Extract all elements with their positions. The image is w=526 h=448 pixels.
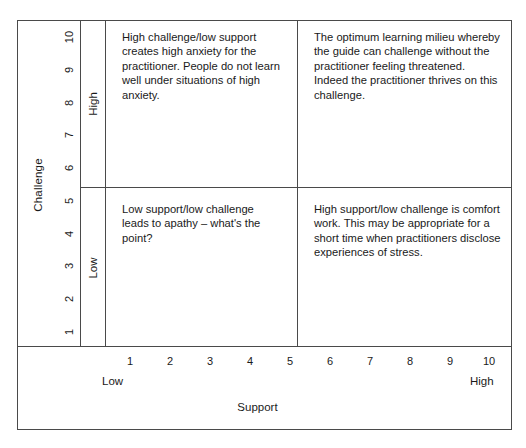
y-tick-label: 4 [63, 231, 75, 237]
x-axis-title: Support [18, 401, 513, 413]
y-tick: 1 [58, 315, 80, 348]
y-tick: 3 [58, 250, 80, 283]
y-tick: 2 [58, 283, 80, 316]
x-tick: 1 [115, 355, 145, 367]
challenge-support-matrix: Challenge 10 9 8 7 6 5 4 3 2 1 High Low … [17, 20, 512, 347]
quadrant-text: The optimum learning milieu whereby the … [314, 30, 502, 102]
y-tick-label: 9 [63, 67, 75, 73]
y-tick: 10 [58, 21, 80, 54]
band-low-text: Low [87, 257, 99, 278]
x-tick: 6 [315, 355, 345, 367]
x-tick: 2 [155, 355, 185, 367]
quadrant-high-challenge-low-support: High challenge/low support creates high … [106, 21, 297, 187]
quadrant-low-challenge-low-support: Low support/low challenge leads to apath… [106, 188, 297, 348]
band-label-high: High [81, 21, 105, 187]
y-tick-label: 5 [63, 198, 75, 204]
x-axis-high-label: High [470, 375, 494, 387]
y-axis-title-text: Challenge [32, 158, 44, 212]
y-tick: 5 [58, 185, 80, 218]
x-tick: 4 [235, 355, 265, 367]
x-tick: 8 [395, 355, 425, 367]
x-tick: 9 [435, 355, 465, 367]
x-tick: 5 [275, 355, 305, 367]
x-tick: 10 [474, 355, 504, 367]
y-axis-title: Challenge [18, 21, 58, 348]
quadrant-text: Low support/low challenge leads to apath… [122, 202, 283, 245]
y-tick: 8 [58, 86, 80, 119]
y-tick-label: 3 [63, 263, 75, 269]
y-tick: 7 [58, 119, 80, 152]
quadrant-high-challenge-high-support: The optimum learning milieu whereby the … [298, 21, 512, 187]
quadrant-text: High challenge/low support creates high … [122, 30, 283, 102]
x-axis-title-text: Support [237, 401, 277, 413]
quadrant-low-challenge-high-support: High support/low challenge is comfort wo… [298, 188, 512, 348]
quadrant-text: High support/low challenge is comfort wo… [314, 202, 502, 260]
y-tick: 9 [58, 54, 80, 87]
y-tick-label: 6 [63, 165, 75, 171]
band-high-text: High [87, 92, 99, 116]
x-tick: 7 [355, 355, 385, 367]
y-tick-label: 1 [63, 329, 75, 335]
band-label-low: Low [81, 188, 105, 348]
y-tick-label: 2 [63, 296, 75, 302]
x-tick: 3 [195, 355, 225, 367]
y-tick: 4 [58, 217, 80, 250]
y-tick: 6 [58, 152, 80, 185]
y-tick-label: 10 [63, 31, 75, 43]
y-tick-label: 7 [63, 132, 75, 138]
y-axis-ticks: 10 9 8 7 6 5 4 3 2 1 [58, 21, 80, 348]
x-axis-low-label: Low [102, 375, 123, 387]
x-axis-panel: 1 2 3 4 5 6 7 8 9 10 Low High Support [17, 347, 512, 430]
y-tick-label: 8 [63, 100, 75, 106]
